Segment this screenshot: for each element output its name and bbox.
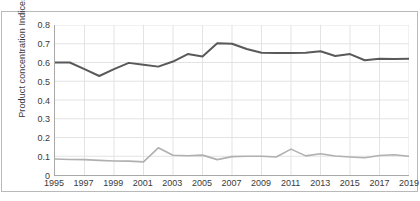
x-tick-label: 2007 [221, 178, 241, 188]
x-tick-label: 2001 [133, 178, 153, 188]
x-tick-label: 2019 [399, 178, 419, 188]
y-tick-label: 0.7 [37, 39, 50, 49]
x-tick-label: 2015 [340, 178, 360, 188]
x-tick-label: 2009 [251, 178, 271, 188]
x-tick-label: 1999 [103, 178, 123, 188]
x-tick-label: 2017 [369, 178, 389, 188]
x-tick-label: 1995 [44, 178, 64, 188]
y-tick-label: 0.5 [37, 77, 50, 87]
y-axis-ticks: 0.80.70.60.50.40.30.20.10 [26, 12, 52, 191]
plot-svg [55, 25, 409, 175]
y-tick-label: 0.2 [37, 133, 50, 143]
y-tick-label: 0.3 [37, 114, 50, 124]
x-axis-ticks: 1995199719992001200320052007200920112013… [54, 178, 409, 194]
x-tick-label: 2011 [281, 178, 300, 188]
chart-figure: Product concentration Indices 0.80.70.60… [0, 0, 420, 201]
y-tick-label: 0.8 [37, 20, 50, 30]
chart-frame: Product concentration Indices 0.80.70.60… [1, 11, 418, 192]
plot-area [54, 25, 409, 176]
x-tick-label: 1997 [74, 178, 94, 188]
x-tick-label: 2003 [162, 178, 182, 188]
x-tick-label: 2005 [192, 178, 212, 188]
clipped-caption [0, 0, 420, 9]
y-tick-label: 0.4 [37, 96, 50, 106]
y-tick-label: 0.1 [37, 152, 50, 162]
y-tick-label: 0.6 [37, 58, 50, 68]
x-tick-label: 2013 [310, 178, 330, 188]
